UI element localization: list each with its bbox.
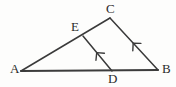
geometry-figure: A B C D E bbox=[0, 0, 176, 87]
segment-AB bbox=[21, 70, 158, 71]
figure-canvas bbox=[0, 0, 176, 87]
segment-ED bbox=[83, 36, 112, 71]
segment-AC bbox=[21, 18, 110, 71]
vertex-label-D: D bbox=[108, 72, 117, 85]
segment-CB bbox=[110, 18, 158, 70]
vertex-label-C: C bbox=[106, 2, 115, 15]
vertex-label-E: E bbox=[71, 20, 79, 33]
vertex-label-A: A bbox=[10, 62, 19, 75]
vertex-label-B: B bbox=[162, 62, 171, 75]
